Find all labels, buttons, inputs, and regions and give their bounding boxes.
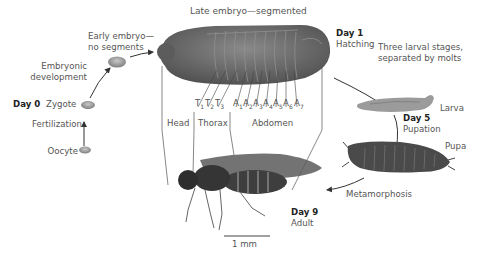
segment-label-t1: T1: [195, 98, 204, 110]
day9-label: Day 9: [291, 207, 318, 217]
larval-stages-label-line1: Three larval stages,: [378, 42, 463, 52]
day0-label: Day 0: [13, 99, 40, 109]
hatching-label: Hatching: [336, 39, 375, 49]
pupation-label: Pupation: [403, 124, 441, 134]
embryonic-development-arrow: [90, 68, 110, 98]
segment-label-a7: A7: [294, 98, 304, 110]
embryonic-development-label-line1: Embryonic: [36, 61, 87, 71]
early-embryo-icon: [108, 57, 126, 68]
oocyte-icon: [79, 147, 91, 154]
segment-label-a2: A2: [243, 98, 253, 110]
early-embryo-label-line2: no segments: [88, 42, 144, 52]
larva-image: [357, 95, 434, 112]
metamorphosis-label: Metamorphosis: [346, 189, 412, 199]
scale-bar-label: 1 mm: [232, 239, 257, 249]
pupa-label: Pupa: [445, 141, 466, 151]
segment-label-a1: A1: [233, 98, 243, 110]
segment-label-a6: A6: [283, 98, 293, 110]
larval-stages-label-line2: separated by molts: [378, 53, 461, 63]
thorax-label: Thorax: [198, 118, 228, 128]
day1-label: Day 1: [336, 28, 363, 38]
drosophila-life-cycle-diagram: Late embryo—segmented Early embryo— no s…: [0, 0, 477, 259]
larva-label: Larva: [440, 103, 464, 113]
head-label: Head: [167, 118, 189, 128]
late-embryo-label: Late embryo—segmented: [190, 6, 307, 16]
zygote-icon: [81, 101, 95, 109]
fertilization-label: Fertilization: [20, 119, 82, 129]
oocyte-label: Oocyte: [30, 146, 78, 156]
day5-label: Day 5: [403, 113, 430, 123]
adult-label: Adult: [291, 218, 313, 228]
pupa-image: [342, 142, 455, 173]
zygote-label: Zygote: [46, 99, 76, 109]
abdomen-label: Abdomen: [252, 118, 293, 128]
segment-label-t3: T3: [215, 98, 224, 110]
segment-label-a3: A3: [253, 98, 263, 110]
arrow-to-late-embryo: [130, 52, 153, 57]
segment-label-t2: T2: [205, 98, 214, 110]
segment-label-a4: A4: [263, 98, 273, 110]
early-embryo-label-line1: Early embryo—: [88, 31, 154, 41]
segment-label-a5: A5: [273, 98, 283, 110]
late-embryo-image: [157, 25, 330, 85]
embryonic-development-label-line2: development: [20, 72, 87, 82]
